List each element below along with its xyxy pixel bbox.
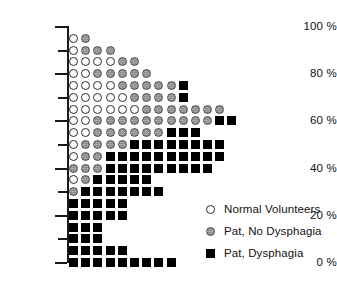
marker-pat-no-dysphagia: [191, 105, 200, 114]
marker-pat-dysphagia: [179, 152, 188, 161]
marker-pat-no-dysphagia: [167, 105, 176, 114]
dot-row: [69, 164, 215, 175]
marker-pat-no-dysphagia: [203, 105, 212, 114]
marker-pat-dysphagia: [179, 81, 188, 90]
marker-pat-no-dysphagia: [81, 164, 90, 173]
marker-pat-dysphagia: [130, 164, 139, 173]
marker-pat-no-dysphagia: [118, 116, 127, 125]
marker-pat-dysphagia: [81, 199, 90, 208]
marker-pat-dysphagia: [142, 187, 151, 196]
marker-pat-no-dysphagia: [118, 69, 127, 78]
black-square-icon: [206, 249, 215, 258]
marker-pat-dysphagia: [142, 164, 151, 173]
marker-pat-no-dysphagia: [130, 128, 139, 137]
marker-pat-dysphagia: [118, 152, 127, 161]
marker-pat-no-dysphagia: [130, 116, 139, 125]
marker-pat-dysphagia: [118, 258, 127, 267]
marker-pat-dysphagia: [81, 223, 90, 232]
marker-pat-no-dysphagia: [154, 93, 163, 102]
dot-row: [69, 258, 179, 269]
marker-pat-no-dysphagia: [142, 128, 151, 137]
marker-pat-dysphagia: [93, 211, 102, 220]
marker-pat-dysphagia: [130, 258, 139, 267]
marker-pat-no-dysphagia: [106, 46, 115, 55]
marker-pat-no-dysphagia: [118, 81, 127, 90]
dot-plot-figure: 100 %80 %60 %40 %20 %0 % Normal Voluntee…: [0, 0, 337, 282]
dot-row: [69, 81, 191, 92]
marker-pat-no-dysphagia: [179, 116, 188, 125]
marker-normal-volunteer: [69, 140, 78, 149]
marker-pat-dysphagia: [69, 223, 78, 232]
marker-normal-volunteer: [93, 81, 102, 90]
marker-pat-dysphagia: [69, 246, 78, 255]
marker-pat-dysphagia: [69, 211, 78, 220]
legend-item: Pat, No Dysphagia: [206, 220, 322, 242]
marker-pat-dysphagia: [81, 234, 90, 243]
dot-row: [69, 57, 142, 68]
marker-pat-dysphagia: [142, 258, 151, 267]
marker-pat-dysphagia: [203, 164, 212, 173]
open-circle-icon: [206, 205, 215, 214]
legend-item: Normal Volunteers: [206, 198, 322, 220]
marker-pat-no-dysphagia: [93, 69, 102, 78]
marker-pat-dysphagia: [81, 258, 90, 267]
marker-pat-dysphagia: [81, 187, 90, 196]
marker-pat-dysphagia: [179, 164, 188, 173]
marker-pat-no-dysphagia: [106, 116, 115, 125]
marker-pat-no-dysphagia: [81, 46, 90, 55]
marker-pat-dysphagia: [106, 199, 115, 208]
marker-pat-no-dysphagia: [167, 116, 176, 125]
marker-pat-dysphagia: [118, 187, 127, 196]
marker-normal-volunteer: [106, 93, 115, 102]
marker-pat-no-dysphagia: [93, 128, 102, 137]
marker-pat-no-dysphagia: [154, 81, 163, 90]
marker-normal-volunteer: [106, 81, 115, 90]
marker-normal-volunteer: [81, 93, 90, 102]
marker-pat-no-dysphagia: [142, 81, 151, 90]
dot-row: [69, 175, 154, 186]
marker-pat-dysphagia: [167, 258, 176, 267]
marker-pat-dysphagia: [191, 140, 200, 149]
marker-pat-no-dysphagia: [191, 116, 200, 125]
marker-pat-dysphagia: [93, 187, 102, 196]
marker-normal-volunteer: [118, 105, 127, 114]
marker-pat-no-dysphagia: [203, 116, 212, 125]
marker-normal-volunteer: [93, 57, 102, 66]
dot-row: [69, 234, 106, 245]
marker-pat-no-dysphagia: [130, 81, 139, 90]
marker-pat-no-dysphagia: [118, 128, 127, 137]
marker-pat-dysphagia: [215, 152, 224, 161]
marker-pat-dysphagia: [154, 164, 163, 173]
marker-pat-dysphagia: [154, 140, 163, 149]
marker-pat-no-dysphagia: [106, 128, 115, 137]
marker-pat-dysphagia: [167, 164, 176, 173]
marker-pat-dysphagia: [106, 175, 115, 184]
marker-pat-no-dysphagia: [130, 69, 139, 78]
dot-row: [69, 199, 130, 210]
marker-normal-volunteer: [69, 175, 78, 184]
dot-row: [69, 246, 130, 257]
marker-normal-volunteer: [69, 93, 78, 102]
marker-normal-volunteer: [130, 105, 139, 114]
marker-pat-dysphagia: [154, 187, 163, 196]
marker-pat-dysphagia: [106, 211, 115, 220]
marker-normal-volunteer: [69, 46, 78, 55]
marker-normal-volunteer: [93, 105, 102, 114]
marker-pat-dysphagia: [167, 152, 176, 161]
marker-pat-no-dysphagia: [142, 69, 151, 78]
marker-pat-no-dysphagia: [130, 93, 139, 102]
marker-pat-dysphagia: [203, 140, 212, 149]
marker-pat-no-dysphagia: [93, 140, 102, 149]
marker-normal-volunteer: [81, 128, 90, 137]
marker-pat-no-dysphagia: [215, 105, 224, 114]
marker-normal-volunteer: [81, 57, 90, 66]
legend-item-label: Normal Volunteers: [224, 203, 320, 215]
marker-pat-dysphagia: [130, 152, 139, 161]
marker-normal-volunteer: [81, 105, 90, 114]
marker-normal-volunteer: [81, 81, 90, 90]
marker-pat-dysphagia: [167, 128, 176, 137]
marker-pat-dysphagia: [142, 152, 151, 161]
marker-pat-dysphagia: [93, 258, 102, 267]
gray-circle-icon: [206, 227, 215, 236]
marker-pat-no-dysphagia: [81, 140, 90, 149]
